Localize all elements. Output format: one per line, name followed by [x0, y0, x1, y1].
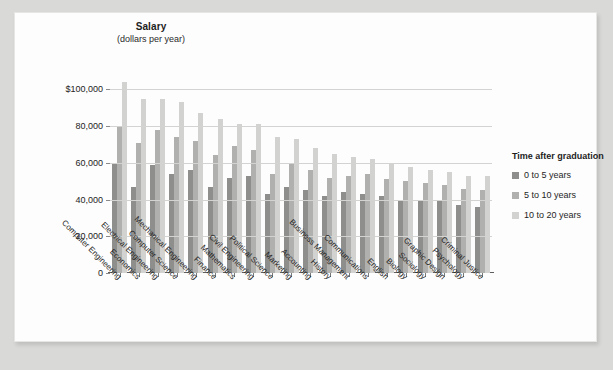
gridline — [110, 89, 492, 90]
bar — [332, 154, 337, 273]
legend-swatch-icon — [512, 172, 519, 179]
bar-group — [282, 71, 301, 273]
y-axis-tick-label: 40,000 — [75, 195, 103, 205]
screenshot-page: Salary (dollars per year) 020,00040,0006… — [0, 0, 613, 370]
legend-swatch-icon — [512, 212, 519, 219]
legend-label: 5 to 10 years — [524, 190, 576, 200]
y-axis-tick-mark — [106, 126, 110, 127]
y-axis-tick-label: 80,000 — [75, 121, 103, 131]
bar — [179, 102, 184, 273]
bar-group — [358, 71, 377, 273]
bar-group — [454, 71, 473, 273]
y-axis-tick-label: $100,000 — [65, 84, 103, 94]
legend-item[interactable]: 0 to 5 years — [512, 170, 612, 180]
legend-title: Time after graduation — [512, 151, 612, 162]
legend-label: 0 to 5 years — [524, 170, 571, 180]
y-axis-tick-label: 0 — [98, 268, 103, 278]
bar-group — [186, 71, 205, 273]
legend-item[interactable]: 10 to 20 years — [512, 210, 612, 220]
bar-group — [377, 71, 396, 273]
gridline — [110, 126, 492, 127]
legend-item[interactable]: 5 to 10 years — [512, 190, 612, 200]
y-axis-tick-label: 60,000 — [75, 158, 103, 168]
bar-group — [244, 71, 263, 273]
legend-items: 0 to 5 years5 to 10 years10 to 20 years — [512, 170, 612, 220]
chart-legend: Time after graduation 0 to 5 years5 to 1… — [512, 151, 612, 230]
bar — [485, 176, 490, 273]
chart-card: Salary (dollars per year) 020,00040,0006… — [14, 12, 597, 342]
gridline — [110, 163, 492, 164]
legend-label: 10 to 20 years — [524, 210, 581, 220]
chart-subtitle: (dollars per year) — [51, 34, 251, 45]
bar-group — [416, 71, 435, 273]
bar-group — [339, 71, 358, 273]
page-title: Salary — [51, 21, 251, 34]
gridline — [110, 200, 492, 201]
bar-group — [263, 71, 282, 273]
chart-title-block: Salary (dollars per year) — [51, 21, 251, 45]
bar — [294, 139, 299, 273]
bar-group — [167, 71, 186, 273]
bar-group — [473, 71, 492, 273]
y-axis-tick-mark — [106, 163, 110, 164]
y-axis-tick-mark — [106, 89, 110, 90]
legend-swatch-icon — [512, 192, 519, 199]
y-axis-tick-mark — [106, 200, 110, 201]
